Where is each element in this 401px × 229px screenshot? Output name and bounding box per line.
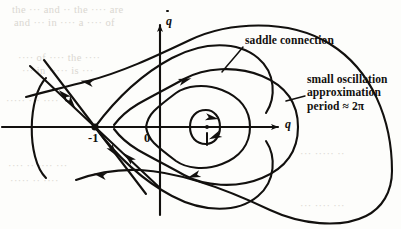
small-oscillation-line-1: small oscillation bbox=[307, 73, 388, 86]
origin-label: 0 bbox=[144, 131, 150, 146]
outer-trajectory-lower bbox=[76, 170, 392, 224]
small-oscillation-line-3: period ≈ 2π bbox=[307, 100, 388, 113]
saddle-connection-annotation: saddle connection bbox=[245, 34, 334, 47]
phase-portrait-figure: the ··· and ·· the ···· areand ··· in ··… bbox=[0, 0, 401, 229]
saddle-point-label: -1 bbox=[88, 131, 98, 146]
saddle-connection-lower-branch bbox=[95, 127, 273, 209]
y-axis-label-text: q bbox=[166, 14, 172, 28]
stable-manifold-upper-left bbox=[44, 60, 95, 127]
saddle-connection-upper-branch bbox=[95, 45, 273, 127]
y-axis-label: q bbox=[166, 14, 172, 29]
x-axis-label: q bbox=[285, 117, 291, 132]
annotation-leader-lines bbox=[222, 47, 305, 101]
stable-manifold-upper-left-outgoing bbox=[30, 66, 95, 127]
small-oscillation-annotation: small oscillation approximation period ≈… bbox=[307, 73, 388, 113]
saddle-point-marker bbox=[91, 123, 98, 130]
center-point-marker bbox=[205, 125, 209, 129]
arrow-stable-out-upper bbox=[56, 88, 70, 102]
small-oscillation-line-2: approximation bbox=[307, 86, 388, 99]
phase-portrait-drawing bbox=[0, 0, 401, 229]
